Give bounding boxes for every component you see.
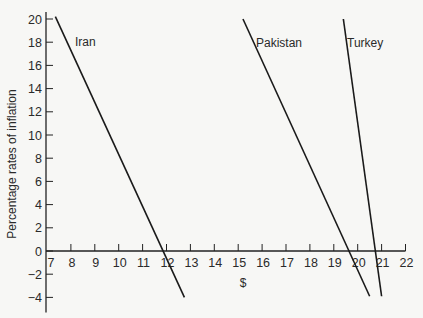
y-tick-label: 6 xyxy=(35,175,42,189)
series-label-turkey: Turkey xyxy=(347,36,383,50)
series-label-iran: Iran xyxy=(75,35,96,49)
y-tick-label: 20 xyxy=(28,13,42,27)
y-axis-title: Percentage rates of inflation xyxy=(5,89,19,238)
x-tick-label: 11 xyxy=(137,256,150,270)
y-tick-label: 4 xyxy=(35,198,42,212)
y-tick-label: 8 xyxy=(35,152,42,166)
x-axis-title: $ xyxy=(240,276,247,290)
x-tick-label: 8 xyxy=(68,256,75,270)
y-tick-label: 2 xyxy=(35,221,42,235)
x-tick-label: 12 xyxy=(161,256,175,270)
y-tick-label: −2 xyxy=(28,268,42,282)
series-label-pakistan: Pakistan xyxy=(256,36,302,50)
y-tick-label: 16 xyxy=(28,59,42,73)
x-tick-label: 18 xyxy=(304,256,318,270)
x-tick-label: 9 xyxy=(92,256,99,270)
x-tick-label: 14 xyxy=(208,256,222,270)
series-line-turkey xyxy=(343,19,381,296)
y-tick-label: 18 xyxy=(28,36,42,50)
x-tick-label: 7 xyxy=(48,256,55,270)
y-tick-label: 14 xyxy=(28,82,42,96)
x-tick-label: 22 xyxy=(400,256,414,270)
series-line-pakistan xyxy=(243,19,370,296)
x-tick-label: 15 xyxy=(232,256,246,270)
x-tick-label: 16 xyxy=(256,256,270,270)
y-tick-label: 10 xyxy=(28,129,42,143)
y-tick-label: 0 xyxy=(35,245,42,259)
y-tick-label: 12 xyxy=(28,105,42,119)
x-tick-label: 13 xyxy=(184,256,198,270)
x-tick-label: 10 xyxy=(113,256,127,270)
inflation-chart: −4−2024681012141618207891011121314151617… xyxy=(0,0,423,318)
x-tick-label: 19 xyxy=(328,256,342,270)
x-tick-label: 17 xyxy=(280,256,294,270)
y-tick-label: −4 xyxy=(28,291,42,305)
